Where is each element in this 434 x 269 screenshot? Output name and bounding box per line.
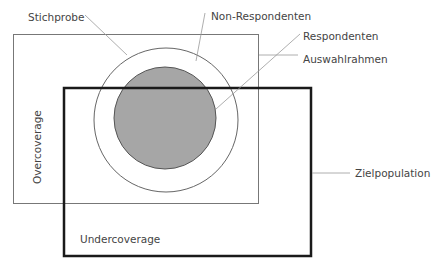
auswahlrahmen-label: Auswahlrahmen [303, 53, 388, 65]
respondenten-label: Respondenten [303, 30, 379, 42]
stichprobe-label: Stichprobe [28, 11, 84, 23]
overcoverage-label: Overcoverage [31, 110, 43, 184]
non-respondenten-label: Non-Respondenten [211, 10, 311, 22]
zielpopulation-label: Zielpopulation [355, 167, 430, 179]
undercoverage-label: Undercoverage [80, 233, 160, 245]
respondenten-circle [114, 67, 216, 169]
coverage-diagram: Stichprobe Non-Respondenten Respondenten… [0, 0, 434, 269]
non-respondenten-leader [196, 13, 205, 61]
